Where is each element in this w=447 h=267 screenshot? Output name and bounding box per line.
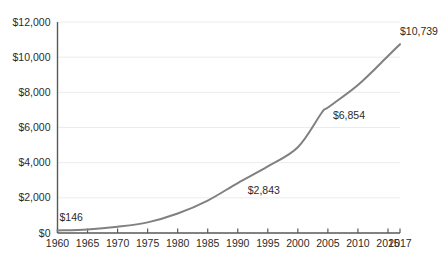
y-axis-tick-label: $8,000	[18, 86, 50, 98]
x-axis-tick-label: 1970	[106, 237, 130, 249]
x-axis-tick-label: 1960	[46, 237, 70, 249]
y-axis-tick-label: $4,000	[18, 156, 50, 168]
data-series-line	[58, 44, 401, 230]
line-chart: $0$2,000$4,000$6,000$8,000$10,000$12,000…	[0, 0, 447, 267]
x-axis-tick-label: 2005	[316, 237, 340, 249]
series-line	[58, 44, 401, 230]
x-axis-tick-label: 1995	[256, 237, 280, 249]
data-point-label: $146	[60, 211, 84, 223]
y-axis-tick-labels: $0$2,000$4,000$6,000$8,000$10,000$12,000	[13, 16, 51, 239]
y-axis-tick-label: $6,000	[18, 121, 50, 133]
data-point-label: $6,854	[333, 109, 365, 121]
y-axis-tick-label: $10,000	[13, 51, 51, 63]
x-axis-tick-label: 1965	[76, 237, 100, 249]
chart-container: $0$2,000$4,000$6,000$8,000$10,000$12,000…	[0, 0, 447, 267]
y-axis-tick-label: $12,000	[13, 16, 51, 28]
x-axis-tick-label: 2017	[388, 237, 412, 249]
x-axis-tick-label: 1975	[136, 237, 160, 249]
data-point-label: $10,739	[400, 25, 438, 37]
y-axis-tick-label: $2,000	[18, 191, 50, 203]
data-point-labels: $146$2,843$6,854$10,739	[60, 25, 439, 223]
x-axis-tick-label: 1990	[226, 237, 250, 249]
x-axis-tick-label: 1985	[196, 237, 220, 249]
x-axis-tick-label: 2010	[346, 237, 370, 249]
x-axis-tick-label: 2000	[286, 237, 310, 249]
x-axis-tick-label: 1980	[166, 237, 190, 249]
data-point-label: $2,843	[248, 184, 280, 196]
x-axis-tick-labels: 1960196519701975198019851990199520002005…	[46, 237, 412, 249]
